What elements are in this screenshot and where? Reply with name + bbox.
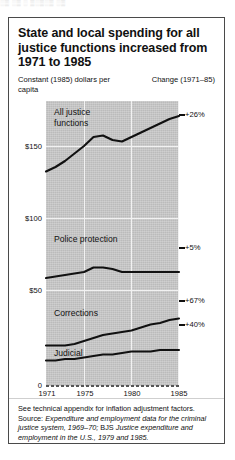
chart-plot-area: All justice functions Police protection … — [46, 101, 179, 386]
change-police: +5% — [185, 243, 200, 252]
x-tick-1980: 1980 — [112, 389, 152, 398]
series-label-police: Police protection — [54, 234, 118, 245]
line-corrections — [46, 319, 179, 346]
series-label-corrections: Corrections — [54, 308, 98, 319]
x-tick-1975: 1975 — [65, 389, 105, 398]
page-title: State and local spending for all justice… — [18, 26, 218, 70]
change-all-justice: +26% — [185, 110, 205, 119]
x-tick-1985: 1985 — [159, 389, 199, 398]
y-axis-unit-label: Constant (1985) dollars per capita — [18, 75, 113, 94]
x-axis-rule — [46, 385, 179, 387]
footnote: See technical appendix for inflation adj… — [18, 404, 214, 442]
y-tick-100: $100 — [9, 214, 42, 223]
series-label-judicial: Judicial — [54, 348, 83, 359]
footnote-divider — [9, 398, 224, 399]
line-police — [46, 268, 179, 279]
change-column-header: Change (1971–85) — [125, 75, 215, 85]
change-corrections: +67% — [185, 296, 205, 305]
x-tick-1971: 1971 — [27, 389, 67, 398]
y-tick-50: $50 — [9, 286, 42, 295]
change-judicial: +40% — [185, 320, 205, 329]
figure-panel: State and local spending for all justice… — [8, 17, 225, 444]
series-label-all-justice: All justice functions — [54, 107, 124, 128]
y-tick-150: $150 — [9, 142, 42, 151]
footnote-mid: BJS — [98, 423, 115, 432]
scan-artifact-strip: ░▒ ░▒ ░ ▒░▒░▒ ░▒ — [0, 0, 120, 7]
